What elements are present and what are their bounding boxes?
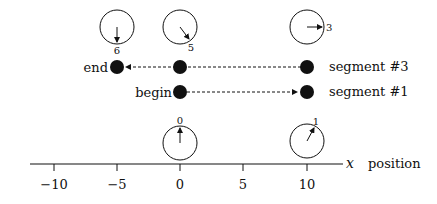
tick-label: 10 bbox=[299, 177, 316, 192]
clock-reading: 1 bbox=[313, 116, 319, 127]
segment-3-row: end segment #3 bbox=[84, 59, 409, 75]
tick-label: 0 bbox=[176, 177, 184, 192]
position-axis: −10 −5 0 5 10 x position bbox=[30, 155, 421, 192]
tick-label: −5 bbox=[107, 177, 126, 192]
clock-icon: 1 bbox=[290, 116, 324, 158]
tick-label: 5 bbox=[239, 177, 247, 192]
axis-variable-label: x bbox=[346, 155, 354, 171]
event-dot bbox=[173, 85, 187, 99]
end-label: end bbox=[84, 60, 108, 75]
diagram-canvas: −10 −5 0 5 10 x position 6 5 3 0 1 bbox=[0, 0, 437, 204]
event-dot bbox=[300, 85, 314, 99]
axis-ticks bbox=[54, 164, 307, 171]
clock-reading: 3 bbox=[326, 22, 332, 33]
axis-name-label: position bbox=[368, 156, 421, 171]
event-dot bbox=[173, 60, 187, 74]
clock-reading: 5 bbox=[188, 42, 194, 53]
clock-icon: 0 bbox=[163, 115, 197, 160]
segment-label: segment #3 bbox=[329, 59, 409, 74]
tick-label: −10 bbox=[40, 177, 67, 192]
clock-reading: 0 bbox=[177, 115, 183, 126]
clock-icon: 5 bbox=[163, 10, 197, 53]
segment-1-row: begin segment #1 bbox=[135, 84, 408, 100]
event-dot bbox=[110, 60, 124, 74]
clock-icon: 3 bbox=[290, 10, 332, 44]
event-dot bbox=[300, 60, 314, 74]
clock-icon: 6 bbox=[100, 10, 134, 56]
begin-label: begin bbox=[135, 85, 172, 100]
segment-label: segment #1 bbox=[329, 84, 409, 99]
clock-reading: 6 bbox=[114, 45, 120, 56]
